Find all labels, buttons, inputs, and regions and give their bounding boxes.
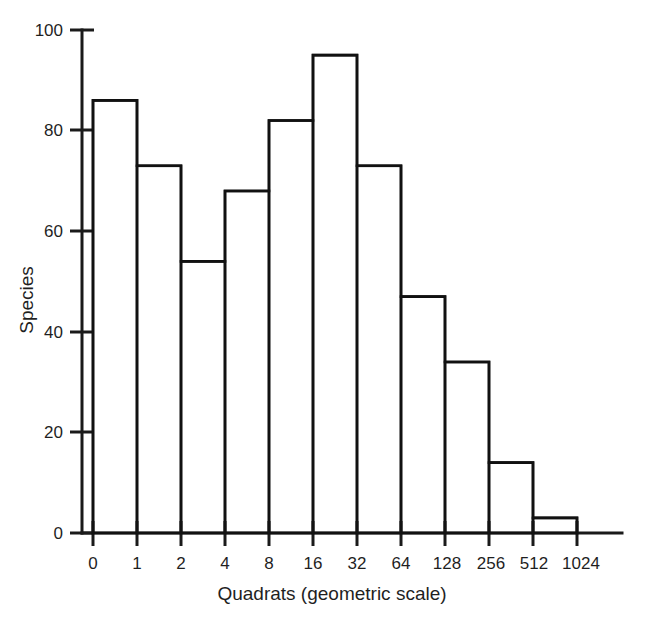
histogram-bar [225,191,269,533]
y-tick-label-20: 20 [44,423,63,442]
x-tick-label-8: 8 [264,554,273,573]
y-tick-label-60: 60 [44,222,63,241]
y-tick-label-0: 0 [54,524,63,543]
histogram-bar [313,55,357,533]
histogram-bar [269,121,313,533]
histogram-bar [181,261,225,533]
histogram-bar [357,166,401,533]
x-tick-label-16: 16 [304,554,323,573]
histogram-bar [533,518,577,533]
histogram-bar [93,100,137,533]
x-tick-label-1024: 1024 [562,554,600,573]
x-tick-label-64: 64 [392,554,411,573]
x-tick-label-4: 4 [220,554,229,573]
x-tick-label-128: 128 [433,554,461,573]
histogram-bar [489,463,533,533]
histogram-canvas: 100 80 60 40 20 0 Species 0 1 [0,0,664,620]
x-tick-label-512: 512 [520,554,548,573]
y-tick-label-40: 40 [44,323,63,342]
histogram-bars [93,55,577,533]
histogram-bar [445,362,489,533]
x-axis-title: Quadrats (geometric scale) [217,583,446,604]
y-axis-tick-labels: 100 80 60 40 20 0 [35,21,63,543]
x-tick-label-0: 0 [88,554,97,573]
x-tick-label-2: 2 [176,554,185,573]
y-tick-label-100: 100 [35,21,63,40]
histogram-bar [137,166,181,533]
x-axis-tick-labels: 0 1 2 4 8 16 32 64 128 256 512 1024 [88,554,600,573]
y-tick-label-80: 80 [44,121,63,140]
x-tick-label-1: 1 [132,554,141,573]
histogram-bar [401,297,445,533]
x-tick-label-32: 32 [348,554,367,573]
histogram-figure: 100 80 60 40 20 0 Species 0 1 [0,0,664,620]
x-tick-label-256: 256 [477,554,505,573]
y-axis-title: Species [16,266,37,334]
